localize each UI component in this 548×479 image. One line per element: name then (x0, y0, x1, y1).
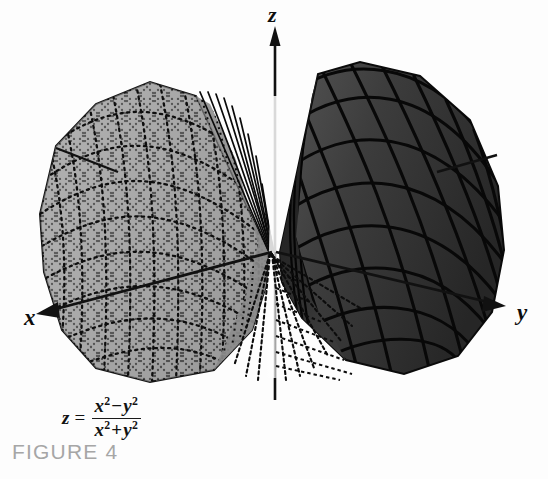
equation-equals: = (75, 407, 86, 429)
equation-denominator: x2+y2 (92, 418, 142, 441)
numerator-operator: − (110, 395, 123, 416)
numerator-y: y (123, 395, 132, 416)
denominator-y-exponent: 2 (132, 419, 138, 432)
denominator-operator: + (110, 419, 123, 440)
denominator-y: y (123, 419, 132, 440)
equation-lhs: z (62, 407, 70, 429)
numerator-x: x (95, 395, 105, 416)
equation-numerator: x2−y2 (92, 396, 142, 418)
surface-equation: z = x2−y2 x2+y2 (62, 396, 141, 441)
numerator-y-exponent: 2 (132, 395, 138, 408)
figure-caption: FIGURE 4 (12, 440, 118, 464)
x-axis-label: x (23, 305, 36, 330)
denominator-x: x (95, 419, 105, 440)
z-axis-label: z (267, 2, 277, 27)
y-axis-label: y (514, 300, 528, 325)
equation-fraction: x2−y2 x2+y2 (92, 396, 142, 441)
figure-container: x y z z = x2−y2 x2+y2 FIGURE 4 (0, 0, 548, 479)
